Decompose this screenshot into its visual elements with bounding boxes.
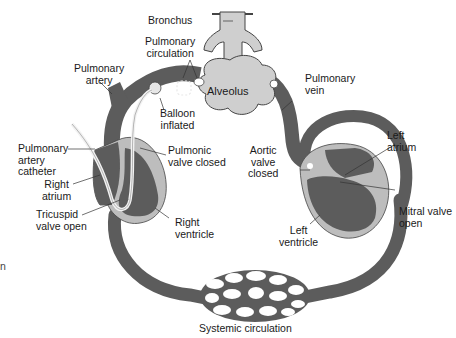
label-balloon-inflated: Balloon inflated	[160, 108, 195, 131]
circulation-diagram: Bronchus Pulmonary circulation Pulmonary…	[0, 0, 456, 338]
label-pulmonary-circulation: Pulmonary circulation	[145, 36, 195, 59]
label-mitral-valve-open: Mitral valve open	[399, 206, 452, 229]
label-left-atrium: Left atrium	[387, 130, 416, 153]
diagram-artwork	[0, 0, 456, 338]
label-pulmonary-artery-catheter: Pulmonary artery catheter	[18, 143, 68, 178]
label-pulmonic-valve-closed: Pulmonic valve closed	[168, 145, 226, 168]
label-pulmonary-vein: Pulmonary vein	[305, 73, 355, 96]
label-right-atrium: Right atrium	[42, 179, 71, 202]
label-alveolus: Alveolus	[207, 86, 249, 98]
capillary-bed	[200, 270, 310, 322]
bronchus-shape	[204, 12, 262, 62]
left-heart	[300, 144, 389, 239]
label-bronchus: Bronchus	[148, 15, 192, 27]
label-pulmonary-artery: Pulmonary artery	[74, 63, 124, 86]
label-right-ventricle: Right ventricle	[175, 217, 214, 240]
label-left-ventricle: Left ventricle	[279, 225, 318, 248]
label-tricuspid-valve-open: Tricuspid valve open	[36, 209, 87, 232]
edge-text-fragment: n	[0, 261, 6, 273]
label-aortic-valve-closed: Aortic valve closed	[248, 145, 278, 180]
label-systemic-circulation: Systemic circulation	[199, 323, 292, 335]
